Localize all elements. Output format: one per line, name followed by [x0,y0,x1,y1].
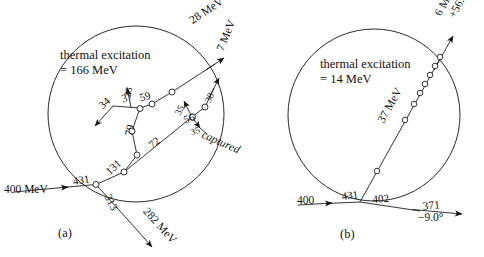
collision-node [417,90,423,96]
collision-node [137,106,143,112]
collision-node [169,89,175,95]
collision-node [411,101,417,107]
thermal-excitation-b-line1: thermal excitation [320,57,411,72]
collision-node [402,117,408,123]
segment-402-b [360,202,420,211]
collision-node [432,63,438,69]
incident-energy-label-b: 400 [297,194,314,208]
trajectory-canvas [0,0,484,257]
thermal-excitation-a-line1: thermal excitation [60,48,151,63]
thermal-excitation-a-line2: = 166 MeV [60,63,118,78]
figure-root: thermal excitation = 166 MeV 400 MeV 28 … [0,0,484,257]
thermal-excitation-b-line2: = 14 MeV [320,72,372,87]
segment-37mev-b [360,57,441,202]
collision-node [422,81,428,87]
collision-node [427,72,433,78]
collision-node [121,169,127,175]
segment-label-431-b: 431 [341,188,359,203]
incident-energy-label-a: 400 MeV [4,183,48,197]
segment-label-431-a: 431 [72,172,90,187]
panel-caption-b: (b) [340,227,355,242]
collision-node [374,168,380,174]
collision-node [93,182,99,188]
exit-282-a [137,230,152,247]
collision-node [437,54,443,60]
panel-caption-a: (a) [58,226,72,241]
exit-label-angle-9-b: −9.0° [418,211,443,225]
collision-node [202,104,208,110]
segment-79-a [124,131,137,172]
segment-label-402-b: 402 [372,192,389,206]
nucleus-circle-b [288,29,460,201]
collision-node [134,152,140,158]
